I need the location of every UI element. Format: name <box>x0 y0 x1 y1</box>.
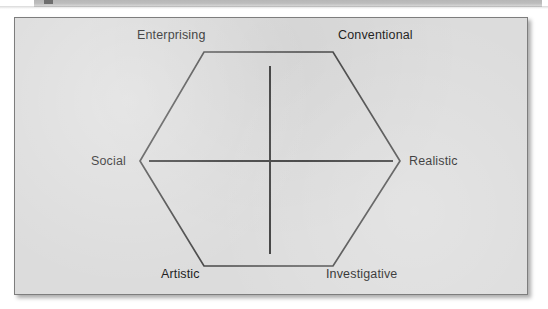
vertex-label-enterprising: Enterprising <box>137 29 206 42</box>
vertex-label-realistic: Realistic <box>409 155 458 168</box>
scan-artifact-strip <box>0 0 548 9</box>
vertex-label-investigative: Investigative <box>326 268 397 281</box>
scan-artifact-mark <box>44 0 53 4</box>
vertex-label-artistic: Artistic <box>161 268 200 281</box>
vertex-label-social: Social <box>91 155 126 168</box>
scan-artifact-fade <box>0 6 548 9</box>
vertex-label-conventional: Conventional <box>338 29 413 42</box>
figure-panel: Enterprising Conventional Social Realist… <box>14 17 528 295</box>
